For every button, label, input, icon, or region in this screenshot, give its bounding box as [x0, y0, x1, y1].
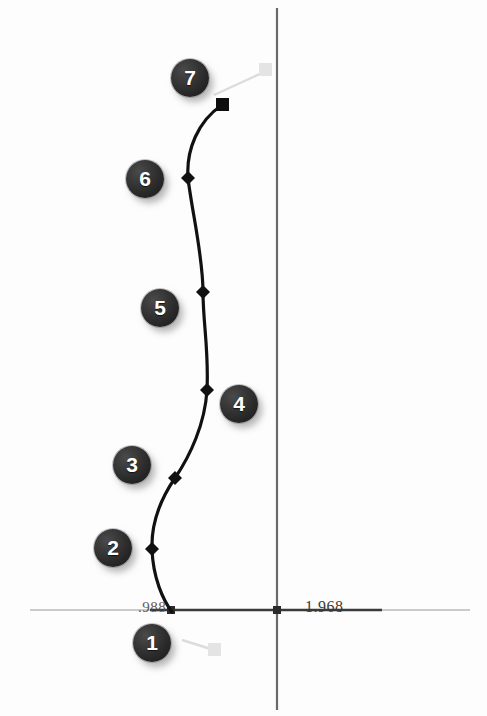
callout-badge-1[interactable]: 1 [133, 624, 171, 662]
callout-badge-6[interactable]: 6 [126, 160, 164, 198]
ghost-markers [208, 63, 272, 656]
callout-badge-7[interactable]: 7 [171, 59, 209, 97]
callout-badge-2[interactable]: 2 [94, 529, 132, 567]
plot-svg [0, 0, 487, 716]
axis-label-left: .988 [138, 599, 166, 616]
axis-label-right: 1.968 [305, 598, 344, 616]
callout-badge-3[interactable]: 3 [113, 446, 151, 484]
curve-end-square-marker [216, 98, 229, 111]
ghost-leader-lines [182, 73, 262, 650]
dimension-line [150, 606, 382, 614]
callout-badge-4[interactable]: 4 [220, 385, 258, 423]
plot-canvas: 1 2 3 4 5 6 7 .988 1.968 [0, 0, 487, 716]
construction-lines [30, 8, 470, 710]
data-point-markers [145, 171, 214, 556]
callout-badge-5[interactable]: 5 [141, 289, 179, 327]
